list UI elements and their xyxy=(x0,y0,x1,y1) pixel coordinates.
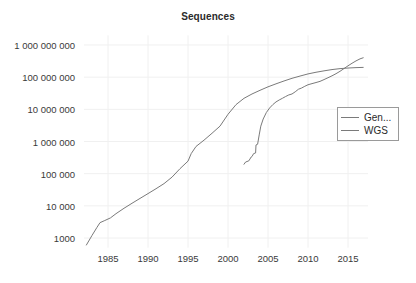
legend-line-swatch-icon xyxy=(341,117,359,118)
chart-legend[interactable]: Gen...WGS xyxy=(337,107,399,141)
gridlines xyxy=(84,35,368,247)
y-axis-tick-label: 100 000 xyxy=(0,168,75,179)
legend-item-genbank[interactable]: Gen... xyxy=(341,111,393,124)
x-axis-tick-label: 2005 xyxy=(257,253,278,264)
x-axis-tick-label: 2015 xyxy=(337,253,358,264)
data-series-layer xyxy=(86,58,363,245)
legend-item-wgs[interactable]: WGS xyxy=(341,124,393,137)
legend-line-swatch-icon xyxy=(341,130,359,131)
x-axis-tick-label: 1985 xyxy=(97,253,118,264)
x-axis-tick-label: 1995 xyxy=(177,253,198,264)
y-axis-tick-label: 10 000 000 xyxy=(0,104,75,115)
legend-item-label: WGS xyxy=(364,124,388,137)
y-axis-tick-label: 100 000 000 xyxy=(0,72,75,83)
y-axis-tick-label: 1000 xyxy=(0,233,75,244)
x-axis-tick-label: 2010 xyxy=(297,253,318,264)
chart-container: Sequences 100010 000100 0001 000 00010 0… xyxy=(0,0,416,283)
series-line-genbank xyxy=(86,67,363,245)
x-axis-tick-label: 2000 xyxy=(217,253,238,264)
y-axis-tick-label: 1 000 000 000 xyxy=(0,40,75,51)
x-axis-tick-label: 1990 xyxy=(137,253,158,264)
y-axis-tick-label: 1 000 000 xyxy=(0,136,75,147)
y-axis-tick-label: 10 000 xyxy=(0,200,75,211)
legend-item-label: Gen... xyxy=(364,111,391,124)
